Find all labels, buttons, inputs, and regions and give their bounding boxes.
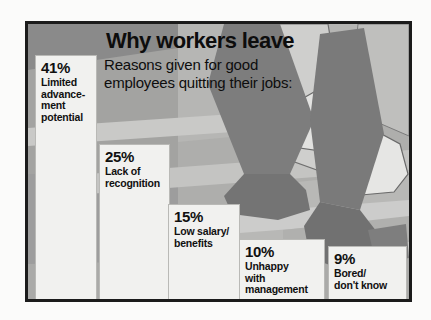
chart-frame: 41% Limited advance- ment potential 25% … bbox=[25, 21, 412, 302]
infographic-canvas: 41% Limited advance- ment potential 25% … bbox=[0, 0, 431, 320]
bar-label-1: Lack of recognition bbox=[105, 166, 164, 189]
bar-value-2: 15% bbox=[174, 209, 234, 224]
bar-value-3: 10% bbox=[245, 244, 319, 259]
chart-subtitle: Reasons given for good employees quittin… bbox=[104, 56, 292, 91]
bar-label-0: Limited advance- ment potential bbox=[41, 77, 91, 123]
bar-low-salary-benefits[interactable]: 15% Low salary/ benefits bbox=[168, 204, 240, 302]
bar-bored-dont-know[interactable]: 9% Bored/ don't know bbox=[328, 246, 407, 302]
bar-label-4: Bored/ don't know bbox=[334, 268, 401, 291]
bar-unhappy-with-management[interactable]: 10% Unhappy with management bbox=[239, 239, 325, 302]
bar-label-3: Unhappy with management bbox=[245, 261, 319, 296]
bar-value-4: 9% bbox=[334, 251, 401, 266]
bar-lack-of-recognition[interactable]: 25% Lack of recognition bbox=[99, 144, 170, 302]
bar-value-1: 25% bbox=[105, 149, 164, 164]
bar-value-0: 41% bbox=[41, 60, 91, 75]
bar-limited-advancement-potential[interactable]: 41% Limited advance- ment potential bbox=[35, 55, 97, 302]
bar-label-2: Low salary/ benefits bbox=[174, 226, 234, 249]
chart-title: Why workers leave bbox=[106, 29, 294, 53]
